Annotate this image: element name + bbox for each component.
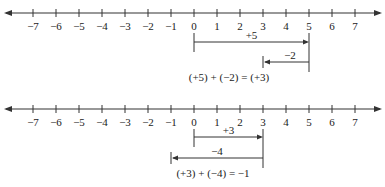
tick-label: −2: [142, 20, 154, 32]
tick-label: −7: [27, 116, 39, 128]
tick-label: 7: [352, 20, 358, 32]
tick-label: 4: [283, 20, 289, 32]
tick-label: −2: [142, 116, 154, 128]
arrow-right-icon: [374, 10, 382, 16]
tick-label: 6: [329, 20, 335, 32]
tick-label: 1: [214, 116, 220, 128]
addend-arrow-2: −2: [263, 33, 309, 72]
tick-label: 2: [237, 116, 243, 128]
arrow-left-icon: [4, 106, 12, 112]
equation: (+5) + (−2) = (+3): [189, 71, 270, 84]
tick-label: −1: [165, 20, 177, 32]
tick-label: 0: [191, 116, 197, 128]
tick-label: 3: [260, 20, 266, 32]
tick-label: −4: [96, 20, 108, 32]
tick-label: −1: [165, 116, 177, 128]
arrow-label: +5: [246, 29, 258, 41]
number-line-top: −7−6−5−4−3−2−101234567+5−2(+5) + (−2) = …: [4, 9, 382, 84]
tick-label: 4: [283, 116, 289, 128]
tick-label: −3: [119, 20, 131, 32]
arrow-left-icon: [4, 10, 12, 16]
tick-label: 0: [191, 20, 197, 32]
number-line-bottom: −7−6−5−4−3−2−101234567+3−4(+3) + (−4) = …: [4, 105, 382, 180]
equation: (+3) + (−4) = −1: [176, 167, 249, 180]
tick-label: −5: [73, 116, 85, 128]
arrow-label: −2: [284, 49, 296, 61]
tick-label: 1: [214, 20, 220, 32]
tick-label: −6: [50, 20, 62, 32]
tick-label: −5: [73, 20, 85, 32]
addend-arrow-2: −4: [171, 129, 263, 168]
tick-label: −7: [27, 20, 39, 32]
tick-label: −6: [50, 116, 62, 128]
tick-label: −4: [96, 116, 108, 128]
tick-label: 6: [329, 116, 335, 128]
tick-label: 7: [352, 116, 358, 128]
number-line-diagram: −7−6−5−4−3−2−101234567+5−2(+5) + (−2) = …: [0, 0, 385, 187]
arrow-label: −4: [211, 145, 223, 157]
tick-label: −3: [119, 116, 131, 128]
tick-label: 2: [237, 20, 243, 32]
tick-label: 3: [260, 116, 266, 128]
arrow-right-icon: [374, 106, 382, 112]
tick-label: 5: [306, 116, 312, 128]
tick-label: 5: [306, 20, 312, 32]
addend-arrow-1: +3: [194, 124, 263, 147]
arrow-label: +3: [223, 124, 235, 136]
